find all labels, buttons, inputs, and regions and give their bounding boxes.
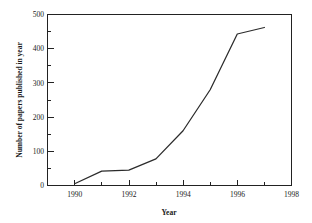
line-chart: 0 100 200 300 400 500 1990 1992 1994 199… — [0, 0, 312, 223]
y-tick-labels: 0 100 200 300 400 500 — [33, 10, 45, 190]
x-tick-label: 1998 — [284, 190, 299, 199]
x-tick-labels: 1990 1992 1994 1996 1998 — [67, 190, 299, 199]
plot-frame — [48, 15, 292, 186]
x-axis-minor-ticks — [48, 182, 265, 186]
y-axis-minor-ticks — [48, 32, 52, 169]
x-axis-major-ticks — [75, 180, 292, 186]
y-tick-label: 300 — [33, 79, 45, 88]
x-tick-label: 1990 — [67, 190, 82, 199]
y-tick-label: 100 — [33, 147, 45, 156]
y-tick-label: 200 — [33, 113, 45, 122]
chart-figure: 0 100 200 300 400 500 1990 1992 1994 199… — [0, 0, 312, 223]
x-tick-label: 1996 — [230, 190, 245, 199]
x-tick-label: 1994 — [176, 190, 191, 199]
data-series-line — [75, 28, 265, 184]
y-axis-title: Number of papers published in year — [15, 42, 24, 158]
y-tick-label: 500 — [33, 10, 45, 19]
y-tick-label: 0 — [40, 181, 44, 190]
x-axis-title: Year — [162, 208, 178, 217]
y-tick-label: 400 — [33, 44, 45, 53]
x-tick-label: 1992 — [122, 190, 137, 199]
